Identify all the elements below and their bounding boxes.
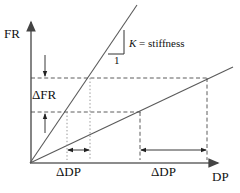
low-stiffness-line — [30, 67, 233, 163]
stiffness-equals-text: = stiffness — [136, 37, 184, 49]
stiffness-diagram: FR DP ΔFR ΔDP ΔDP K = stiffness 1 — [0, 0, 240, 193]
x-axis-label: DP — [212, 170, 229, 183]
delta-dp-left-label: ΔDP — [56, 165, 81, 178]
unit-run-label: 1 — [114, 55, 120, 66]
stiffness-annotation: K = stiffness — [129, 38, 185, 49]
high-stiffness-line — [30, 5, 137, 163]
delta-dp-right-label: ΔDP — [151, 165, 176, 178]
delta-fr-label: ΔFR — [32, 88, 56, 101]
y-axis-label: FR — [4, 27, 20, 40]
